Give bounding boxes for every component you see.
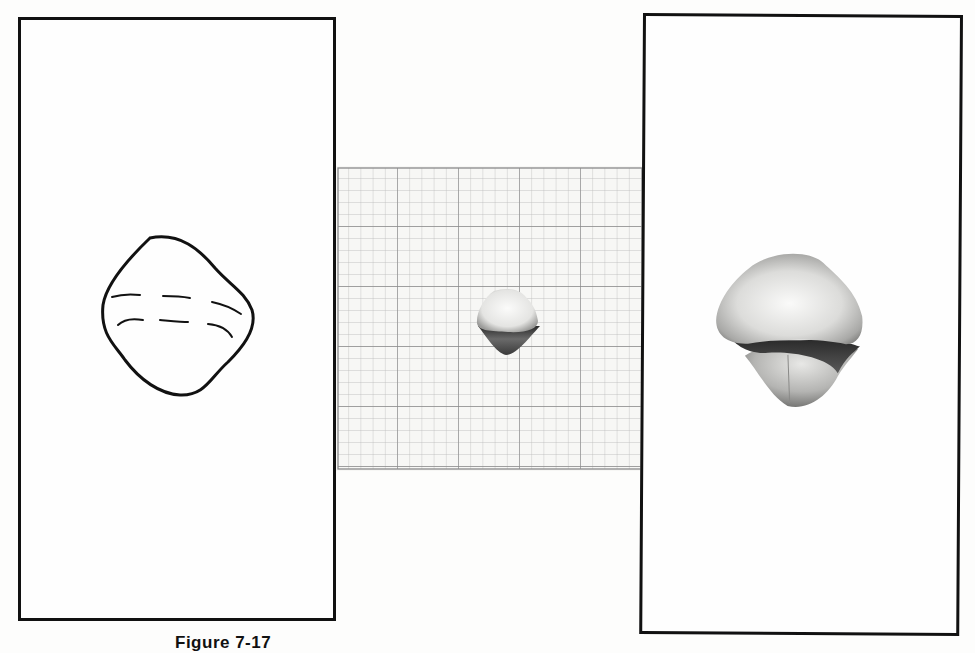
- enlarged-object-rendering: [639, 13, 963, 636]
- graph-paper-grid: [336, 166, 646, 471]
- object-outline-drawing: [18, 17, 336, 621]
- right-panel-shaded-rendering: [639, 13, 963, 636]
- left-panel-outline-drawing: [18, 17, 336, 621]
- figure-caption: Figure 7-17: [175, 633, 271, 653]
- graph-paper-photo: [336, 166, 646, 471]
